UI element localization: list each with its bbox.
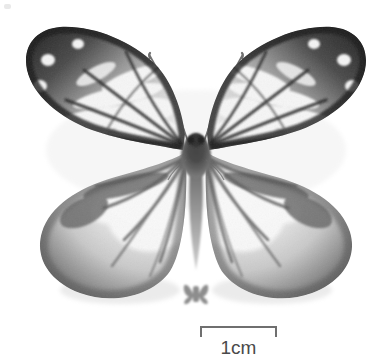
scale-bar-rule [200,326,277,337]
scale-bar-label: 1cm [200,337,277,358]
actual-size-butterfly-icon [184,285,209,304]
butterfly-specimen-image [0,0,392,363]
specimen-plate: 1cm [0,0,392,363]
left-eye [188,137,195,144]
right-eye [198,137,205,144]
scale-bar: 1cm [0,318,392,363]
